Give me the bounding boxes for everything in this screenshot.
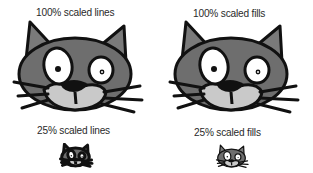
cat-25-lines (58, 143, 94, 168)
cat-25-fills (214, 144, 250, 169)
label-25-lines: 25% scaled lines (37, 124, 110, 136)
label-100-lines: 100% scaled lines (36, 6, 114, 18)
label-100-fills: 100% scaled fills (193, 7, 265, 19)
label-25-fills: 25% scaled fills (194, 126, 261, 138)
cat-100-fills (160, 20, 306, 116)
cat-100-lines (4, 20, 150, 116)
